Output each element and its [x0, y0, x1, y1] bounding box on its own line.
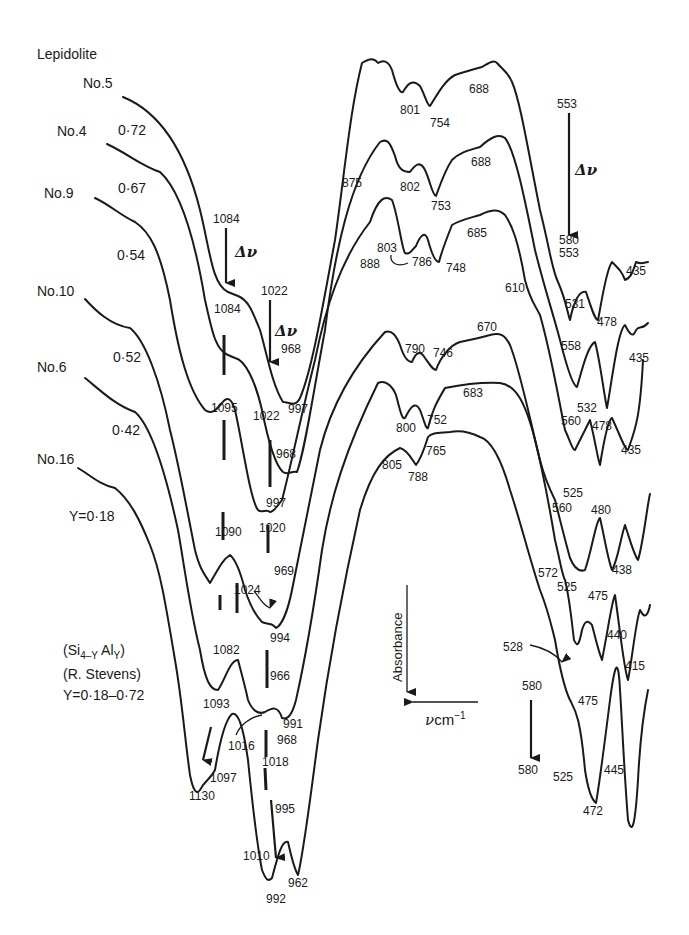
y-range-label: Y=0·18–0·72: [63, 688, 144, 702]
peak-label: 790: [405, 343, 425, 355]
peak-label: 968: [277, 734, 297, 746]
peak-label: 435: [621, 444, 641, 456]
peak-label: 875: [342, 177, 362, 189]
peak-label: 531: [565, 298, 585, 310]
peak-label: 969: [274, 565, 294, 577]
peak-label: 1093: [203, 698, 230, 710]
peak-label: 525: [563, 487, 583, 499]
peak-label: 580: [518, 764, 538, 776]
sample-label-no4: No.4: [57, 124, 87, 138]
peak-label: 435: [629, 352, 649, 364]
peak-label: 480: [591, 504, 611, 516]
author-label: (R. Stevens): [63, 667, 141, 681]
peak-label: 525: [557, 581, 577, 593]
peak-label: 1022: [253, 410, 280, 422]
absorbance-label: Absorbance: [390, 613, 405, 682]
y-value-no5: 0·72: [118, 123, 146, 137]
y-value-no6: 0·42: [112, 423, 140, 437]
peak-label: 580: [559, 234, 579, 246]
peak-label: 1082: [213, 644, 240, 656]
peak-label: 1018: [262, 756, 289, 768]
peak-label: 558: [561, 340, 581, 352]
sample-label-no5: No.5: [83, 76, 113, 90]
peak-label: 997: [288, 403, 308, 415]
peak-label: 438: [612, 564, 632, 576]
peak-label: 1020: [259, 522, 286, 534]
pointer-1016: [236, 715, 262, 735]
peak-label: 888: [360, 258, 380, 270]
sample-label-no16: No.16: [37, 452, 74, 466]
peak-label: 1130: [189, 790, 215, 802]
sample-label-no6: No.6: [37, 360, 67, 374]
y-value-no16: Y=0·18: [69, 509, 115, 523]
delta-nu-label-2: Δν: [275, 322, 297, 340]
formula-label: (Si4–Y AlY): [63, 643, 125, 663]
peak-label: 746: [433, 347, 453, 359]
peak-label: 553: [559, 247, 579, 259]
peak-label: 415: [625, 660, 645, 672]
y-value-no9: 0·54: [117, 248, 145, 262]
peak-label: 968: [276, 448, 296, 460]
peak-label: 1090: [215, 526, 242, 538]
peak-label: 445: [604, 764, 624, 776]
peak-label: 802: [400, 181, 420, 193]
peak-label: 688: [469, 83, 489, 95]
peak-label: 800: [396, 422, 416, 434]
peak-label: 475: [588, 590, 608, 602]
peak-label: 440: [607, 629, 627, 641]
peak-label: 962: [288, 877, 308, 889]
y-value-no4: 0·67: [118, 181, 146, 195]
peak-label: 1084: [213, 213, 240, 225]
peak-label: 560: [552, 502, 572, 514]
peak-label: 1097: [210, 772, 237, 784]
peak-label: 683: [463, 387, 483, 399]
delta-nu-label-1: Δν: [235, 243, 257, 261]
peak-label: 1084: [214, 303, 241, 315]
peak-label: 475: [578, 695, 598, 707]
peak-label: 553: [557, 98, 577, 110]
sample-label-no10: No.10: [37, 284, 74, 298]
peak-label: 478: [597, 316, 617, 328]
peak-label: 572: [538, 567, 558, 579]
peak-label: 803: [377, 242, 397, 254]
peak-label: 752: [427, 414, 447, 426]
peak-label: 472: [583, 805, 603, 817]
peak-label: 786: [412, 256, 432, 268]
peak-label: 610: [505, 282, 525, 294]
peak-label: 528: [503, 641, 523, 653]
peak-label: 966: [270, 670, 290, 682]
peak-label: 1022: [261, 285, 288, 297]
peak-label: 688: [471, 156, 491, 168]
peak-label: 532: [577, 402, 597, 414]
pointer-1097: [203, 727, 211, 760]
peak-label: 1024: [234, 584, 261, 596]
peak-label: 805: [382, 459, 402, 471]
peak-label: 560: [561, 415, 581, 427]
y-value-no10: 0·52: [113, 350, 141, 364]
peak-label: 670: [477, 321, 497, 333]
peak-label: 685: [467, 227, 487, 239]
peak-label: 1095: [211, 402, 238, 414]
peak-label: 994: [270, 632, 290, 644]
peak-label: 801: [400, 104, 420, 116]
wavenumber-label: νcm−1: [425, 710, 466, 726]
delta-nu-label-3: Δν: [575, 161, 597, 179]
peak-label: 753: [431, 200, 451, 212]
peak-label: 580: [522, 680, 542, 692]
chart-title: Lepidolite: [37, 47, 97, 61]
peak-label: 788: [408, 471, 428, 483]
peak-label: 748: [446, 262, 466, 274]
peak-label: 478: [592, 420, 612, 432]
peak-label: 525: [553, 771, 573, 783]
peak-label: 435: [626, 265, 646, 277]
peak-label: 968: [281, 343, 301, 355]
peak-label: 754: [430, 117, 450, 129]
sample-label-no9: No.9: [44, 186, 74, 200]
ir-spectra-plot: [0, 0, 689, 935]
peak-label: 1010: [243, 850, 270, 862]
peak-label: 991: [283, 718, 303, 730]
peak-label: 995: [275, 803, 295, 815]
peak-label: 997: [266, 497, 286, 509]
peak-label: 1016: [228, 740, 255, 752]
peak-label: 992: [266, 893, 286, 905]
